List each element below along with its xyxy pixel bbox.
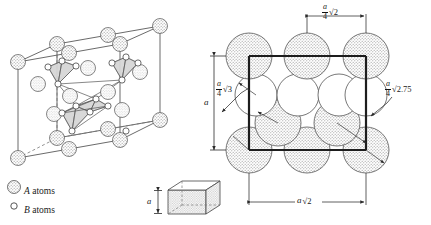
legend-a-letter: A — [24, 186, 30, 196]
annotation-left-diagonal: a 4 √3 — [216, 79, 232, 98]
top-spacing-radical: √2 — [329, 7, 338, 17]
close-packed-plane-section — [210, 14, 392, 205]
top-spacing-denominator: 4 — [322, 13, 328, 21]
figure-svg — [0, 0, 431, 225]
unit-cell-perspective — [11, 19, 168, 166]
left-diagonal-radical: √3 — [223, 84, 232, 94]
left-diagonal-denominator: 4 — [216, 90, 222, 98]
figure-root: A atoms B atoms a a a 4 √2 a 4 √3 a 4 √2… — [0, 0, 431, 225]
annotation-right-diagonal: a 4 √2.75 — [385, 79, 412, 98]
height-dimension — [210, 56, 226, 150]
right-diagonal-numerator: a — [385, 80, 391, 88]
annotation-top-spacing: a 4 √2 — [322, 2, 338, 21]
cube-inset — [154, 181, 220, 214]
right-diagonal-denominator: 4 — [385, 90, 391, 98]
legend-symbols — [8, 181, 21, 210]
legend-b-letter: B — [24, 205, 30, 215]
cell-width-base: a — [297, 195, 302, 205]
legend-item-a: A atoms — [24, 180, 55, 198]
right-diagonal-radical: √2.75 — [392, 84, 412, 94]
top-spacing-numerator: a — [322, 3, 328, 11]
legend-b-text: atoms — [32, 205, 55, 215]
cube-inset-edge-label: a — [147, 196, 151, 206]
legend-b-symbol — [11, 203, 17, 209]
legend-a-symbol — [8, 181, 21, 194]
legend-a-text: atoms — [32, 186, 55, 196]
annotation-cell-width: a√2 — [297, 195, 311, 206]
legend-item-b: B atoms — [24, 199, 55, 217]
left-diagonal-numerator: a — [216, 80, 222, 88]
plane-height-label: a — [204, 97, 209, 107]
cell-width-radical: √2 — [303, 196, 312, 206]
